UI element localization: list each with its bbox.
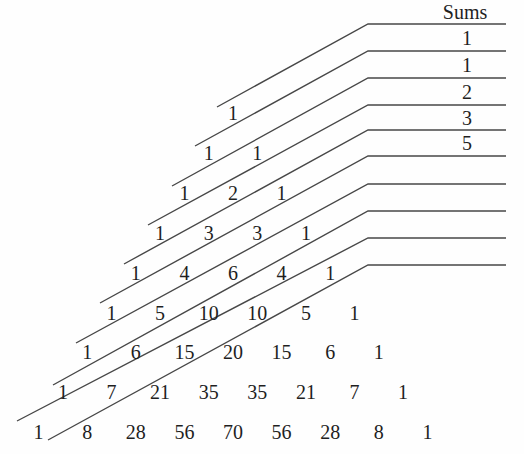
triangle-number-r6-c5: 6 bbox=[325, 341, 335, 363]
sum-diagonal-line bbox=[195, 51, 506, 146]
sums-column-header: Sums bbox=[443, 1, 488, 23]
triangle-number-r7-c5: 21 bbox=[296, 381, 316, 403]
sum-value-3: 3 bbox=[462, 107, 472, 129]
triangle-number-r5-c3: 10 bbox=[247, 302, 267, 324]
triangle-number-r6-c3: 20 bbox=[223, 341, 243, 363]
triangle-number-r1-c0: 1 bbox=[204, 142, 214, 164]
triangle-number-r5-c5: 1 bbox=[350, 302, 360, 324]
triangle-number-r1-c1: 1 bbox=[252, 142, 262, 164]
triangle-number-r3-c1: 3 bbox=[204, 222, 214, 244]
sum-value-4: 5 bbox=[462, 132, 472, 154]
sum-diagonal-line bbox=[172, 78, 506, 186]
triangle-number-r7-c0: 1 bbox=[58, 381, 68, 403]
triangle-number-r6-c0: 1 bbox=[82, 341, 92, 363]
sum-value-1: 1 bbox=[462, 54, 472, 76]
triangle-number-r2-c1: 2 bbox=[228, 182, 238, 204]
triangle-number-r7-c6: 7 bbox=[350, 381, 360, 403]
triangle-number-r5-c0: 1 bbox=[107, 302, 117, 324]
triangle-number-r8-c7: 8 bbox=[374, 421, 384, 443]
triangle-number-r4-c4: 1 bbox=[325, 262, 335, 284]
triangle-number-r6-c2: 15 bbox=[174, 341, 194, 363]
triangle-number-r8-c3: 56 bbox=[174, 421, 194, 443]
triangle-number-r7-c7: 1 bbox=[398, 381, 408, 403]
triangle-number-r3-c0: 1 bbox=[155, 222, 165, 244]
triangle-number-r0-c0: 1 bbox=[228, 102, 238, 124]
triangle-number-r3-c2: 3 bbox=[252, 222, 262, 244]
pascal-fibonacci-figure: Sums 11112113311464115101051161520156117… bbox=[0, 0, 524, 454]
sum-values: 11235 bbox=[462, 27, 472, 155]
triangle-number-r5-c1: 5 bbox=[155, 302, 165, 324]
triangle-number-r8-c5: 56 bbox=[272, 421, 292, 443]
sum-value-0: 1 bbox=[462, 27, 472, 49]
triangle-number-r7-c2: 21 bbox=[150, 381, 170, 403]
triangle-number-r8-c1: 8 bbox=[82, 421, 92, 443]
triangle-number-r7-c4: 35 bbox=[247, 381, 267, 403]
triangle-number-r6-c6: 1 bbox=[374, 341, 384, 363]
triangle-number-r8-c4: 70 bbox=[223, 421, 243, 443]
triangle-number-r6-c1: 6 bbox=[131, 341, 141, 363]
triangle-number-r2-c0: 1 bbox=[179, 182, 189, 204]
pascal-triangle-diagram: Sums 11112113311464115101051161520156117… bbox=[0, 0, 524, 454]
triangle-number-r8-c0: 1 bbox=[34, 421, 44, 443]
triangle-number-r4-c1: 4 bbox=[179, 262, 189, 284]
triangle-number-r2-c2: 1 bbox=[277, 182, 287, 204]
triangle-number-r4-c2: 6 bbox=[228, 262, 238, 284]
triangle-number-r5-c4: 5 bbox=[301, 302, 311, 324]
sum-value-2: 2 bbox=[462, 81, 472, 103]
triangle-number-r7-c3: 35 bbox=[199, 381, 219, 403]
triangle-number-r6-c4: 15 bbox=[272, 341, 292, 363]
triangle-number-r7-c1: 7 bbox=[107, 381, 117, 403]
triangle-number-r5-c2: 10 bbox=[199, 302, 219, 324]
triangle-number-r8-c8: 1 bbox=[422, 421, 432, 443]
triangle-number-r8-c6: 28 bbox=[320, 421, 340, 443]
triangle-number-r3-c3: 1 bbox=[301, 222, 311, 244]
triangle-number-r8-c2: 28 bbox=[126, 421, 146, 443]
triangle-number-r4-c3: 4 bbox=[277, 262, 287, 284]
triangle-number-r4-c0: 1 bbox=[131, 262, 141, 284]
